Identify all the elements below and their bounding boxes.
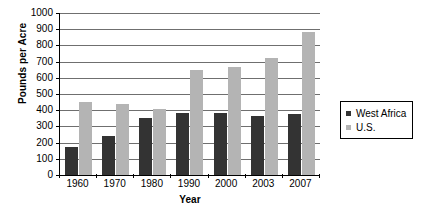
bar bbox=[79, 102, 92, 175]
y-axis-tick-label: 900 bbox=[19, 24, 53, 34]
legend-item: West Africa bbox=[346, 106, 406, 120]
x-axis-tick-label: 1960 bbox=[59, 178, 96, 190]
bar bbox=[288, 114, 301, 175]
bar bbox=[302, 32, 315, 175]
bar-group bbox=[246, 13, 283, 175]
x-axis-tick-label: 1970 bbox=[96, 178, 133, 190]
y-axis-tick-label: 500 bbox=[19, 89, 53, 99]
x-axis-tick-labels: 1960197019801990200020032007 bbox=[59, 178, 321, 192]
legend-item-label: U.S. bbox=[356, 122, 375, 133]
x-axis-tick-mark bbox=[96, 174, 97, 178]
x-axis-tick-label: 2003 bbox=[245, 178, 282, 190]
y-axis-tick-label: 300 bbox=[19, 121, 53, 131]
bar bbox=[65, 147, 78, 175]
bar bbox=[265, 58, 278, 175]
y-axis-tick-label: 800 bbox=[19, 40, 53, 50]
bar bbox=[214, 113, 227, 175]
legend-swatch-icon bbox=[346, 125, 351, 130]
x-axis-tick-mark bbox=[170, 174, 171, 178]
y-axis-tick-label: 600 bbox=[19, 73, 53, 83]
y-axis-tick-label: 700 bbox=[19, 57, 53, 67]
x-axis-tick-label: 2007 bbox=[282, 178, 319, 190]
x-axis-tick-label: 1980 bbox=[133, 178, 170, 190]
y-axis-tick-label: 100 bbox=[19, 154, 53, 164]
bar bbox=[176, 113, 189, 175]
x-axis-tick-mark bbox=[245, 174, 246, 178]
bar bbox=[116, 104, 129, 175]
y-axis-tick-labels: 01002003004005006007008009001000 bbox=[22, 13, 56, 175]
legend-item-label: West Africa bbox=[356, 108, 406, 119]
bar-group bbox=[283, 13, 320, 175]
x-axis-tick-label: 2000 bbox=[208, 178, 245, 190]
bar-group bbox=[171, 13, 208, 175]
y-axis-tick-label: 200 bbox=[19, 138, 53, 148]
bar-groups bbox=[60, 13, 320, 175]
bar bbox=[228, 67, 241, 175]
legend-item: U.S. bbox=[346, 120, 406, 134]
bar bbox=[102, 136, 115, 175]
bar-chart: Pounds per Acre 010020030040050060070080… bbox=[0, 0, 428, 222]
bar bbox=[139, 118, 152, 176]
x-axis-tick-mark bbox=[282, 174, 283, 178]
bar-group bbox=[97, 13, 134, 175]
x-axis-tick-mark bbox=[208, 174, 209, 178]
legend: West AfricaU.S. bbox=[340, 101, 413, 139]
x-axis-tick-mark bbox=[59, 174, 60, 178]
y-axis-tick-label: 0 bbox=[19, 170, 53, 180]
legend-swatch-icon bbox=[346, 111, 351, 116]
bar-group bbox=[60, 13, 97, 175]
x-axis-tick-mark bbox=[133, 174, 134, 178]
x-axis-title: Year bbox=[59, 194, 321, 205]
bar bbox=[153, 109, 166, 175]
bar-group bbox=[209, 13, 246, 175]
bar-group bbox=[134, 13, 171, 175]
x-axis-tick-label: 1990 bbox=[170, 178, 207, 190]
x-axis-tick-mark bbox=[319, 174, 320, 178]
y-axis-tick-label: 1000 bbox=[19, 8, 53, 18]
plot-area bbox=[59, 13, 320, 176]
bar bbox=[190, 70, 203, 175]
y-axis-tick-label: 400 bbox=[19, 105, 53, 115]
bar bbox=[251, 116, 264, 175]
